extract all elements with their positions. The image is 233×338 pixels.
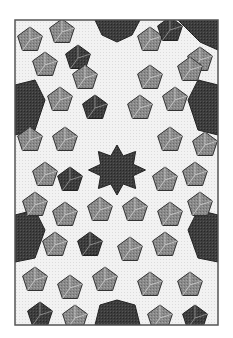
- pattern-field: [15, 17, 218, 329]
- geometric-pattern: [0, 0, 233, 338]
